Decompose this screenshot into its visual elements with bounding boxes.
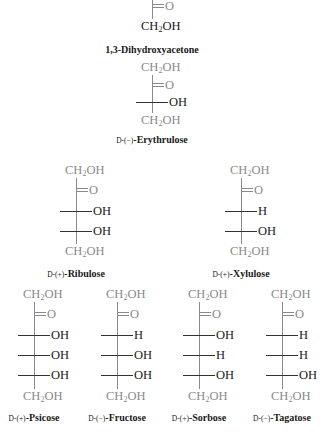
carbonyl-double-bond [199, 312, 211, 316]
substituent-right: OH [51, 368, 69, 382]
substituent-right: OH [216, 328, 234, 342]
substituent-right: OH [93, 204, 111, 218]
top-ch2oh-group: CH2OH [188, 287, 227, 301]
top-ch2oh-group: CH2OH [230, 163, 269, 177]
top-ch2oh-group: CH2OH [65, 163, 104, 177]
carbonyl-double-bond [117, 312, 129, 316]
substituent-right: OH [51, 348, 69, 362]
substituent-right: H [299, 328, 308, 342]
bottom-ch2oh-group: CH2OH [106, 389, 145, 403]
top-ch2oh-group: CH2OH [106, 287, 145, 301]
bottom-ch2oh-group: CH2OH [188, 389, 227, 403]
substituent-right: H [216, 348, 225, 362]
compound-name: Tagatose [274, 412, 311, 423]
stereocenter-bond [183, 355, 215, 356]
optical-rotation-sign: (+) [220, 270, 229, 279]
carbon-backbone-line [152, 75, 153, 113]
stereocenter-bond [266, 375, 298, 376]
stereocenter-bond [60, 211, 92, 212]
substituent-right: H [258, 204, 267, 218]
compound-name: Ribulose [68, 268, 105, 279]
optical-rotation-sign: (+) [55, 270, 64, 279]
stereocenter-bond [225, 231, 257, 232]
bottom-ch2oh-group: CH2OH [141, 113, 180, 127]
carbonyl-double-bond [76, 188, 88, 192]
carbon-backbone-line [152, 0, 153, 19]
stereocenter-bond [60, 231, 92, 232]
substituent-right: OH [216, 368, 234, 382]
stereocenter-bond [266, 355, 298, 356]
compound-name: Erythrulose [137, 134, 188, 145]
substituent-right: OH [299, 368, 317, 382]
substituent-right: OH [93, 224, 111, 238]
compound-name-label: D-(+)-Xylulose [181, 268, 301, 279]
carbonyl-oxygen: O [212, 307, 221, 321]
carbonyl-double-bond [152, 83, 164, 87]
substituent-right: H [299, 348, 308, 362]
carbonyl-double-bond [282, 312, 294, 316]
stereocenter-bond [136, 102, 168, 103]
optical-rotation-sign: (−) [261, 414, 270, 423]
bottom-ch2oh-group: CH2OH [23, 389, 62, 403]
stereocenter-bond [101, 355, 133, 356]
substituent-right: H [134, 328, 143, 342]
compound-name-label: D-(−)-Erythrulose [92, 134, 212, 145]
top-ch2oh-group: CH2OH [141, 60, 180, 74]
carbonyl-oxygen: O [165, 78, 174, 92]
compound-name: Xylulose [233, 268, 270, 279]
stereocenter-bond [18, 335, 50, 336]
bottom-ch2oh-group: CH2OH [230, 244, 269, 258]
stereocenter-bond [101, 335, 133, 336]
compound-name-label: D-(−)-Tagatose [222, 412, 336, 423]
top-ch2oh-group: CH2OH [271, 287, 310, 301]
carbonyl-oxygen: O [165, 0, 174, 13]
bottom-ch2oh-group: CH2OH [65, 244, 104, 258]
optical-rotation-sign: (+) [16, 414, 25, 423]
carbonyl-oxygen: O [130, 307, 139, 321]
stereocenter-bond [101, 375, 133, 376]
substituent-right: OH [134, 368, 152, 382]
stereocenter-bond [18, 375, 50, 376]
carbonyl-double-bond [241, 188, 253, 192]
compound-name-label: 1,3-Dihydroxyacetone [92, 44, 212, 55]
substituent-right: OH [51, 328, 69, 342]
stereocenter-bond [225, 211, 257, 212]
compound-name: Psicose [29, 412, 60, 423]
carbonyl-oxygen: O [295, 307, 304, 321]
stereocenter-bond [266, 335, 298, 336]
substituent-right: OH [169, 95, 187, 109]
compound-name-label: D-(+)-Ribulose [16, 268, 136, 279]
carbonyl-double-bond [152, 4, 164, 8]
bottom-ch2oh-group: CH2OH [271, 389, 310, 403]
substituent-right: OH [258, 224, 276, 238]
stereocenter-bond [18, 355, 50, 356]
optical-rotation-sign: (+) [180, 414, 189, 423]
carbonyl-oxygen: O [254, 183, 263, 197]
carbonyl-oxygen: O [89, 183, 98, 197]
stereocenter-bond [183, 375, 215, 376]
top-ch2oh-group: CH2OH [23, 287, 62, 301]
substituent-right: OH [134, 348, 152, 362]
carbonyl-oxygen: O [47, 307, 56, 321]
carbonyl-double-bond [34, 312, 46, 316]
optical-rotation-sign: (−) [96, 414, 105, 423]
compound-name: 1,3-Dihydroxyacetone [105, 44, 198, 55]
stereocenter-bond [183, 335, 215, 336]
optical-rotation-sign: (−) [124, 136, 133, 145]
bottom-ch2oh-group: CH2OH [141, 19, 180, 33]
